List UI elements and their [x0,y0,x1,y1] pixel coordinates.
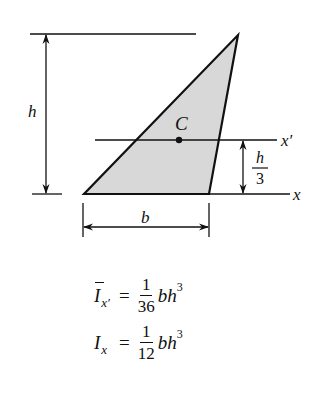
triangle-diagram: h x′ x C h 3 b [0,0,317,260]
moment-symbol: I [94,285,100,307]
numerator: 1 [140,276,153,296]
centroid-label: C [175,113,188,134]
expression: bh [158,332,177,354]
triangle-shape [84,35,238,194]
subscript: x [101,342,107,358]
overbar [95,282,104,283]
centroidal-moment-formula: I x′ = 1 36 bh 3 [94,276,183,315]
centroid-point [176,137,182,143]
subscript: x′ [101,295,110,311]
numerator: 1 [140,323,153,343]
fraction: 1 36 [138,276,155,315]
denominator: 12 [138,343,155,362]
base-label: b [141,208,150,227]
base-moment-formula: I x = 1 12 bh 3 [94,323,183,362]
base-axis-label: x [292,185,301,204]
offset-numerator: h [256,149,264,166]
fraction: 1 12 [138,323,155,362]
symbol-text: I [94,285,100,306]
centroidal-axis-label: x′ [280,131,293,150]
moment-symbol: I [94,332,100,354]
exponent: 3 [177,327,183,342]
height-label: h [28,102,37,121]
offset-denominator: 3 [256,170,264,187]
exponent: 3 [177,280,183,295]
expression: bh [158,285,177,307]
symbol-text: I [94,332,100,353]
equals-sign: = [119,285,130,307]
equals-sign: = [119,332,130,354]
denominator: 36 [138,296,155,315]
